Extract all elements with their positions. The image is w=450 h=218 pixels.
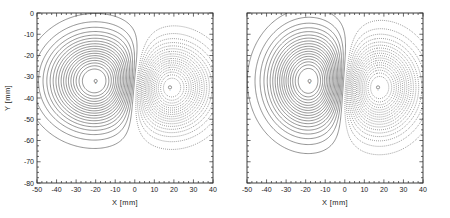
plot-frame — [247, 13, 423, 183]
contour-line-negative — [364, 68, 396, 108]
x-tick-label: -30 — [281, 186, 291, 193]
contour-line-positive — [270, 35, 338, 127]
x-axis-title: X [mm] — [112, 198, 138, 207]
svg-text:-: - — [169, 88, 170, 92]
contour-line-negative — [366, 70, 394, 105]
x-tick-label: -50 — [32, 186, 42, 193]
x-tick-label: 40 — [419, 186, 427, 193]
svg-text:+: + — [95, 81, 97, 85]
contour-line-positive — [39, 27, 133, 134]
contour-line-negative — [353, 48, 414, 127]
x-tick-label: 0 — [343, 186, 347, 193]
extremum-marker-negative: - — [376, 86, 379, 92]
contour-line-negative — [163, 78, 180, 97]
x-axis-title: X [mm] — [322, 198, 348, 207]
contour-line-negative — [144, 51, 207, 123]
contour-line-negative — [136, 26, 213, 150]
contour-line-negative — [141, 46, 212, 129]
contour-line-negative — [137, 34, 213, 142]
contour-line-negative — [153, 65, 194, 110]
extremum-marker-positive: + — [308, 79, 311, 85]
contour-line-positive — [37, 22, 134, 140]
y-tick-label: 0 — [30, 10, 34, 17]
y-tick-label: -10 — [24, 31, 34, 38]
x-tick-label: 30 — [190, 186, 198, 193]
contour-line-negative — [358, 58, 405, 117]
y-tick-label: -40 — [24, 95, 34, 102]
x-tick-label: -10 — [110, 186, 120, 193]
x-tick-labels: -50-40-30-20-10010203040 — [242, 186, 427, 193]
extremum-marker-negative: - — [168, 86, 171, 92]
svg-text:-: - — [378, 88, 379, 92]
y-tick-label: -60 — [24, 137, 34, 144]
contour-line-negative — [150, 61, 198, 115]
svg-text:+: + — [309, 81, 311, 85]
contour-panel-left: +--50-40-30-20-100102030400-10-20-30-40-… — [0, 0, 240, 218]
contour-line-negative — [350, 42, 419, 133]
contour-line-negative — [362, 65, 398, 110]
y-axis-title: Y [mm] — [3, 85, 12, 111]
axis-ticks — [247, 13, 423, 183]
contour-line-negative — [158, 72, 186, 103]
extremum-marker-positive: + — [94, 79, 97, 85]
contour-line-positive — [43, 32, 131, 131]
contour-line-positive — [73, 60, 113, 101]
x-tick-label: 20 — [380, 186, 388, 193]
y-tick-label: -80 — [24, 180, 34, 187]
contour-line-negative — [154, 67, 191, 108]
y-tick-labels: 0-10-20-30-40-50-60-70-80 — [24, 10, 34, 187]
contour-line-negative — [143, 49, 210, 127]
contour-panel-right: +--50-40-30-20-10010203040X [mm] — [210, 0, 450, 218]
contour-line-negative — [139, 39, 213, 137]
y-tick-label: -30 — [24, 73, 34, 80]
panel-container-left: +--50-40-30-20-100102030400-10-20-30-40-… — [0, 0, 240, 218]
contour-line-positive — [50, 38, 128, 123]
x-tick-label: -30 — [71, 186, 81, 193]
contour-line-negative — [348, 34, 423, 141]
contour-figure: +--50-40-30-20-100102030400-10-20-30-40-… — [0, 0, 450, 218]
x-tick-label: -40 — [51, 186, 61, 193]
x-tick-labels: -50-40-30-20-10010203040 — [32, 186, 217, 193]
contour-line-negative — [161, 75, 184, 100]
x-tick-label: 10 — [150, 186, 158, 193]
panel-container-right: +--50-40-30-20-10010203040X [mm] — [210, 0, 450, 218]
y-tick-label: -20 — [24, 52, 34, 59]
x-tick-label: -40 — [261, 186, 271, 193]
x-tick-label: -20 — [91, 186, 101, 193]
y-tick-label: -50 — [24, 116, 34, 123]
x-tick-label: -20 — [301, 186, 311, 193]
x-tick-label: 0 — [133, 186, 137, 193]
x-tick-label: -10 — [320, 186, 330, 193]
x-tick-label: 20 — [170, 186, 178, 193]
x-tick-label: 30 — [400, 186, 408, 193]
y-tick-label: -70 — [24, 158, 34, 165]
x-tick-label: -50 — [242, 186, 252, 193]
x-tick-label: 10 — [360, 186, 368, 193]
